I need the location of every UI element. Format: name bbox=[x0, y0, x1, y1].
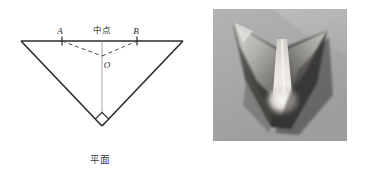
fold-line-o-b bbox=[102, 41, 137, 56]
label-point-b: B bbox=[133, 26, 139, 36]
fold-line-a-o bbox=[62, 41, 102, 56]
label-point-o: O bbox=[104, 60, 111, 70]
panel-plane-diagram: A 中点 B O 平面 bbox=[0, 0, 200, 180]
label-point-a: A bbox=[56, 26, 63, 36]
formed-photo bbox=[213, 9, 347, 141]
right-angle-marker bbox=[95, 112, 108, 125]
panel-formed-photo: 成型 bbox=[200, 0, 379, 180]
plane-diagram-svg: A 中点 B O bbox=[0, 0, 200, 145]
caption-plane: 平面 bbox=[0, 152, 200, 166]
triangle-right-edge bbox=[102, 41, 183, 126]
label-midpoint: 中点 bbox=[93, 25, 111, 35]
triangle-left-edge bbox=[21, 41, 102, 126]
formed-photo-svg bbox=[213, 9, 347, 141]
figure-root: A 中点 B O 平面 bbox=[0, 0, 379, 180]
